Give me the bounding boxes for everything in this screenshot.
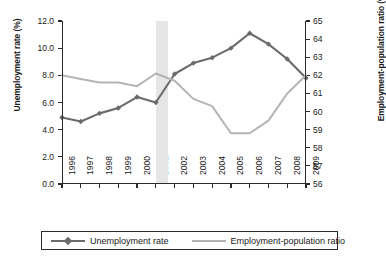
legend-swatch-line-icon	[192, 236, 226, 246]
y-axis-left-tick-label: 0.0	[24, 179, 54, 189]
x-axis-tickmark	[212, 184, 213, 188]
x-axis-tickmark	[99, 184, 100, 188]
series-line	[62, 74, 306, 134]
chart-legend: Unemployment rate Employment-population …	[41, 231, 338, 250]
y-axis-left-tick-label: 4.0	[24, 125, 54, 135]
y-axis-right-tickmark	[306, 165, 310, 166]
y-axis-right-tick-label: 58	[313, 143, 337, 153]
y-axis-right-tickmark	[306, 147, 310, 148]
x-axis-tickmark	[136, 184, 137, 188]
x-axis-tickmark	[118, 184, 119, 188]
y-axis-right-title: Employment-population ratio (%)	[376, 0, 386, 126]
y-axis-right-tickmark	[306, 183, 310, 184]
x-axis-tickmark	[287, 184, 288, 188]
legend-label: Employment-population ratio	[231, 236, 346, 246]
legend-swatch-line-icon	[51, 236, 85, 246]
x-axis-tickmark	[174, 184, 175, 188]
series-lines	[62, 21, 306, 184]
y-axis-right-tick-label: 62	[313, 70, 337, 80]
y-axis-right-tick-label: 61	[313, 88, 337, 98]
x-axis-tickmark	[305, 184, 306, 188]
series-data-point	[59, 115, 64, 120]
plot-area	[62, 21, 306, 184]
y-axis-right-tickmark	[306, 93, 310, 94]
y-axis-right-tick-label: 65	[313, 16, 337, 26]
y-axis-right-tick-label: 63	[313, 52, 337, 62]
x-axis-tick-label: 2009	[311, 156, 321, 190]
y-axis-left-tick-label: 10.0	[24, 43, 54, 53]
legend-item-employment-population-ratio: Employment-population ratio	[183, 236, 346, 246]
y-axis-right-tickmark	[306, 57, 310, 58]
y-axis-right-tickmark	[306, 111, 310, 112]
series-line	[62, 33, 306, 121]
y-axis-right-tick-label: 60	[313, 107, 337, 117]
y-axis-left-tick-label: 2.0	[24, 152, 54, 162]
x-axis-tickmark	[193, 184, 194, 188]
legend-item-unemployment-rate: Unemployment rate	[42, 236, 169, 246]
y-axis-left-tick-label: 6.0	[24, 98, 54, 108]
y-axis-right-tick-label: 64	[313, 34, 337, 44]
y-axis-right-tickmark	[306, 20, 310, 21]
legend-label: Unemployment rate	[90, 236, 169, 246]
x-axis-tickmark	[230, 184, 231, 188]
x-axis-tickmark	[155, 184, 156, 188]
x-axis-tickmark	[80, 184, 81, 188]
y-axis-right-tick-label: 59	[313, 125, 337, 135]
x-axis-tickmark	[268, 184, 269, 188]
y-axis-right-tickmark	[306, 129, 310, 130]
y-axis-left-tick-label: 12.0	[24, 16, 54, 26]
y-axis-right-tickmark	[306, 39, 310, 40]
y-axis-left-title: Unemployment rate (%)	[12, 5, 22, 125]
y-axis-left-tick-label: 8.0	[24, 70, 54, 80]
x-axis-tickmark	[249, 184, 250, 188]
x-axis-tickmark	[61, 184, 62, 188]
